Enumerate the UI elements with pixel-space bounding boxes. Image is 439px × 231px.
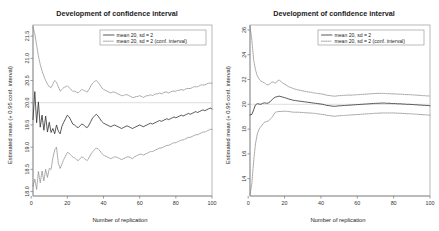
- y-tick-label: 18: [240, 126, 246, 132]
- y-tick-label: 14: [240, 176, 246, 182]
- legend-label-0: mean 20, sd = 2: [334, 32, 371, 38]
- legend-label-1: mean 20, sd = 2 (conf. interval): [117, 38, 188, 44]
- x-tick-label: 40: [317, 200, 323, 206]
- series-0: [33, 92, 212, 134]
- y-axis-left: Estimated mean (+ 0.95 conf. interval) 1…: [7, 25, 33, 197]
- y-axis-label-right: Estimated mean (+ 0.95 conf. interval): [225, 66, 231, 164]
- x-tick-label: 80: [173, 200, 179, 206]
- legend-label-0: mean 20, sd = 2: [117, 32, 154, 38]
- legend-label-1: mean 20, sd = 2 (conf. interval): [334, 38, 405, 44]
- y-tick-label: 24: [240, 52, 246, 58]
- plot-area-right: [250, 25, 430, 196]
- legend-right: mean 20, sd = 2mean 20, sd = 2 (conf. in…: [318, 30, 424, 45]
- x-tick-label: 60: [137, 200, 143, 206]
- legend-left: mean 20, sd = 2mean 20, sd = 2 (conf. in…: [100, 30, 206, 45]
- chart-panel-left: Development of confidence interval Estim…: [0, 0, 220, 231]
- series-2: [33, 129, 212, 189]
- x-axis-label-right: Number of replication: [310, 217, 365, 223]
- y-tick-label: 20.5: [24, 75, 30, 86]
- y-tick-label: 22: [240, 77, 246, 83]
- plot-left: Development of confidence interval Estim…: [0, 0, 219, 231]
- x-tick-label: 100: [208, 200, 217, 206]
- x-axis-label-left: Number of replication: [92, 217, 147, 223]
- x-tick-label: 20: [281, 200, 287, 206]
- x-tick-label: 0: [246, 200, 249, 206]
- chart-title-left: Development of confidence interval: [56, 9, 177, 18]
- y-tick-label: 26: [240, 27, 246, 33]
- y-tick-label: 19.5: [24, 120, 30, 130]
- y-tick-label: 21.0: [24, 53, 30, 64]
- y-axis-right: Estimated mean (+ 0.95 conf. interval) 1…: [225, 25, 250, 196]
- x-tick-label: 100: [425, 200, 434, 206]
- y-axis-label-left: Estimated mean (+ 0.95 conf. interval): [7, 66, 13, 164]
- x-tick-label: 20: [64, 200, 70, 206]
- chart-panel-right: Development of confidence interval Estim…: [220, 0, 439, 231]
- y-tick-label: 21.5: [24, 31, 30, 42]
- series-2: [250, 111, 430, 195]
- plot-area-left: [33, 25, 212, 196]
- x-tick-label: 0: [30, 200, 33, 206]
- y-tick-label: 18.0: [24, 186, 30, 197]
- y-tick-label: 18.5: [24, 164, 30, 175]
- y-tick-label: 20: [240, 101, 246, 107]
- x-tick-label: 60: [354, 200, 360, 206]
- x-tick-label: 80: [390, 200, 396, 206]
- plot-right: Development of confidence interval Estim…: [220, 0, 439, 231]
- y-tick-label: 16: [240, 151, 246, 157]
- x-axis-right: Number of replication 020406080100: [246, 196, 434, 223]
- x-axis-left: Number of replication 020406080100: [30, 196, 217, 223]
- y-tick-label: 19.0: [24, 142, 30, 153]
- figure-container: Development of confidence interval Estim…: [0, 0, 439, 231]
- y-tick-label: 20.0: [24, 97, 30, 108]
- chart-title-right: Development of confidence interval: [273, 9, 394, 18]
- x-tick-label: 40: [101, 200, 107, 206]
